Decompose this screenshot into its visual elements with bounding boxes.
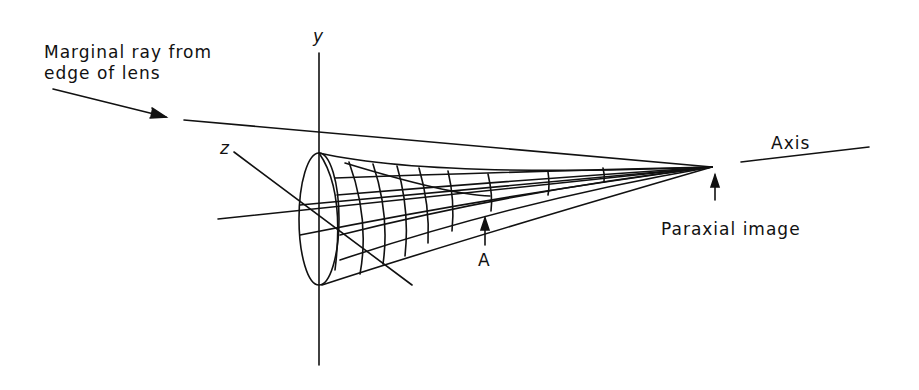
point-a-label: A	[478, 250, 491, 270]
axis-label: Axis	[771, 133, 810, 153]
marginal-ray-label-line1: Marginal ray from	[44, 42, 212, 62]
marginal-ray-label-line2: edge of lens	[44, 63, 161, 83]
cone-rim-inner	[319, 153, 338, 270]
marginal-ray	[184, 120, 712, 167]
z-axis-label: z	[220, 138, 230, 158]
marginal-ray-arrow	[53, 89, 166, 117]
arrowhead-icon	[711, 175, 719, 187]
diagram-canvas: Marginal ray from edge of lens y z Axis …	[0, 0, 919, 390]
cross-section	[448, 171, 453, 231]
paraxial-image-label: Paraxial image	[661, 219, 801, 239]
arrowhead-icon	[150, 108, 166, 118]
y-axis-label: y	[313, 26, 324, 46]
cross-section	[488, 174, 492, 211]
arrowhead-icon	[481, 218, 489, 230]
caustic-ray	[345, 163, 490, 196]
cross-section	[349, 162, 363, 274]
cross-section	[419, 168, 428, 243]
